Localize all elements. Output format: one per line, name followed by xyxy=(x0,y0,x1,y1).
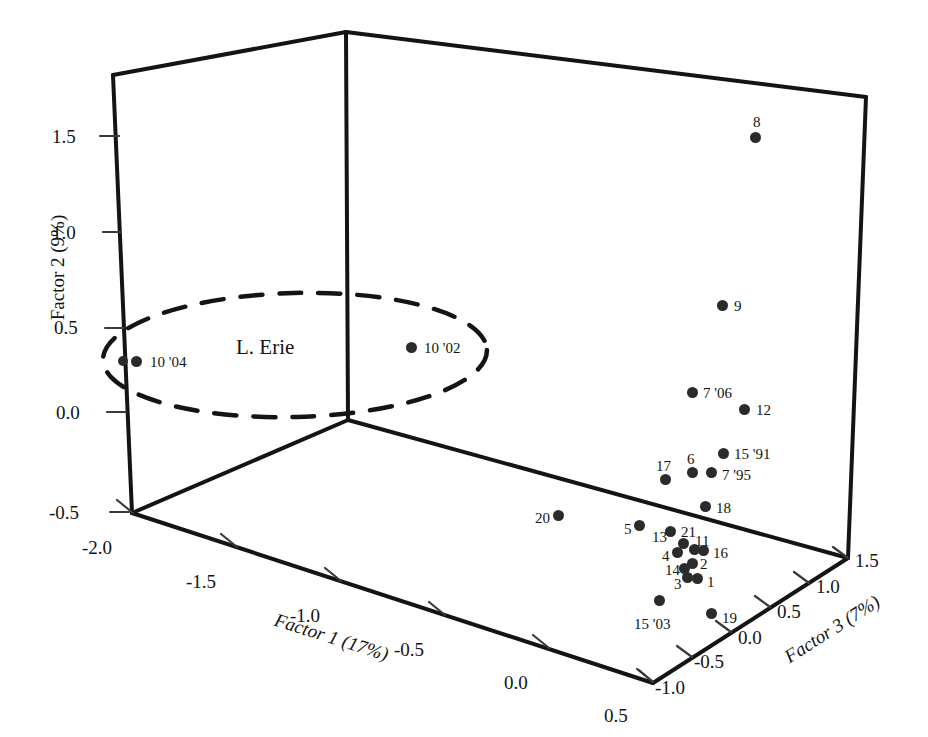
tick-label-y-5: -0.5 xyxy=(49,503,79,522)
tick-label-z-5: 1.0 xyxy=(816,577,840,596)
data-point-label: 8 xyxy=(753,115,761,130)
data-point-label: 7 '95 xyxy=(722,468,751,483)
tick-label-x-2: -1.5 xyxy=(186,572,216,591)
data-point-label: 1 xyxy=(707,575,715,590)
tick-label-x-6: 0.5 xyxy=(604,706,628,725)
data-point-17[interactable] xyxy=(660,474,671,485)
data-point-label: 21 xyxy=(681,525,696,540)
tick-label-y-3: 0.5 xyxy=(54,318,78,337)
data-point-19[interactable] xyxy=(706,608,717,619)
data-point-7-06[interactable] xyxy=(687,387,698,398)
data-point-unlabeled[interactable] xyxy=(118,356,128,366)
data-point-8[interactable] xyxy=(750,132,761,143)
data-point-12[interactable] xyxy=(739,404,750,415)
data-point-10-02[interactable] xyxy=(406,342,417,353)
data-point-5[interactable] xyxy=(634,520,645,531)
tick-label-y-2: 1.0 xyxy=(52,223,76,242)
data-point-label: 19 xyxy=(722,611,737,626)
data-point-3[interactable] xyxy=(682,572,693,583)
data-point-label: 10 '02 xyxy=(424,341,460,356)
box-edge-right-vertical xyxy=(848,97,866,558)
data-point-1[interactable] xyxy=(692,573,703,584)
box-edge-floor-back-right xyxy=(348,420,848,558)
data-point-label: 20 xyxy=(535,511,550,526)
data-point-10-04[interactable] xyxy=(131,356,142,367)
data-point-label: 12 xyxy=(756,403,771,418)
data-point-label: 16 xyxy=(713,546,728,561)
tick-z-0.5 xyxy=(755,596,770,607)
box-edge-left-vertical xyxy=(113,75,132,513)
data-point-9[interactable] xyxy=(717,300,728,311)
data-point-7-95[interactable] xyxy=(706,467,717,478)
tick-label-x-5: 0.0 xyxy=(504,673,528,692)
data-point-15-03[interactable] xyxy=(654,595,665,606)
data-point-6[interactable] xyxy=(687,467,698,478)
data-point-4[interactable] xyxy=(672,547,683,558)
tick-label-z-2: -0.5 xyxy=(694,652,724,671)
data-point-label: 18 xyxy=(716,501,731,516)
data-point-label: 17 xyxy=(656,459,671,474)
region-label-lake-erie: L. Erie xyxy=(236,337,294,358)
data-point-15-91[interactable] xyxy=(718,448,729,459)
box-edge-back-vertical xyxy=(346,32,348,420)
box-edge-floor-back-left xyxy=(132,420,348,513)
data-point-label: 2 xyxy=(700,557,708,572)
tick-label-z-6: 1.5 xyxy=(855,551,879,570)
tick-label-y-4: 0.0 xyxy=(56,403,80,422)
tick-marks xyxy=(100,136,848,682)
data-point-label: 7 '06 xyxy=(703,386,732,401)
data-point-label: 3 xyxy=(674,577,682,592)
tick-label-x-1: -2.0 xyxy=(82,538,112,557)
box-edge-top-right xyxy=(346,32,866,97)
tick-z--0.5 xyxy=(677,646,692,657)
figure-canvas: Factor 2 (9%) Factor 1 (17%) Factor 3 (7… xyxy=(0,0,928,737)
data-point-label: 15 '03 xyxy=(634,617,670,632)
tick-label-z-1: -1.0 xyxy=(655,678,685,697)
data-point-label: 10 '04 xyxy=(150,355,186,370)
tick-label-z-3: 0.0 xyxy=(738,628,762,647)
tick-label-z-4: 0.5 xyxy=(777,602,801,621)
data-point-18[interactable] xyxy=(700,501,711,512)
data-point-16[interactable] xyxy=(698,545,709,556)
box-edge-top-left xyxy=(113,32,346,75)
tick-z-1.0 xyxy=(794,572,809,583)
data-point-label: 13 xyxy=(652,530,667,545)
data-point-label: 6 xyxy=(687,452,695,467)
data-point-label: 5 xyxy=(624,522,632,537)
box-edge-floor-front-left xyxy=(132,513,653,683)
data-point-label: 9 xyxy=(734,299,742,314)
data-point-label: 15 '91 xyxy=(734,447,770,462)
plot-frame-svg xyxy=(0,0,928,737)
tick-label-x-4: -0.5 xyxy=(394,640,424,659)
data-point-20[interactable] xyxy=(553,510,564,521)
tick-label-x-3: -1.0 xyxy=(290,606,320,625)
tick-label-y-1: 1.5 xyxy=(52,127,76,146)
